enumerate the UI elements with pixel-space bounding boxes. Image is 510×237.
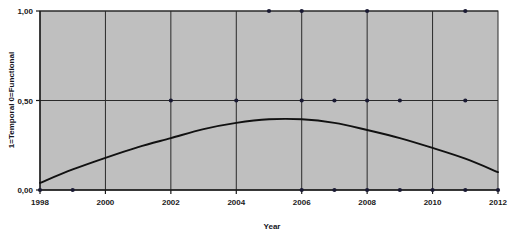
data-point — [365, 9, 369, 13]
data-point — [365, 188, 369, 192]
x-tick-label: 2004 — [227, 198, 245, 207]
y-tick-label: 0,00 — [17, 186, 33, 195]
data-point — [365, 98, 369, 102]
data-point — [398, 98, 402, 102]
data-point — [463, 188, 467, 192]
data-point — [332, 98, 336, 102]
data-point — [267, 9, 271, 13]
x-tick-label: 1998 — [31, 198, 49, 207]
x-tick-label: 2002 — [162, 198, 180, 207]
x-tick-label: 2006 — [293, 198, 311, 207]
data-point — [234, 98, 238, 102]
data-point — [169, 98, 173, 102]
y-axis-title: 1=Temporal 0=Functional — [7, 52, 16, 148]
x-tick-label: 2000 — [97, 198, 115, 207]
y-tick-label: 1,00 — [17, 7, 33, 16]
data-point — [398, 188, 402, 192]
data-point — [300, 98, 304, 102]
x-axis-tick-labels: 19982000200220042006200820102012 — [31, 198, 507, 207]
chart-figure: 0,000,501,00 199820002002200420062008201… — [0, 0, 510, 237]
data-point — [463, 9, 467, 13]
y-axis-tick-labels: 0,000,501,00 — [17, 7, 33, 195]
data-point — [430, 188, 434, 192]
x-tick-label: 2012 — [489, 198, 507, 207]
x-axis-title: Year — [264, 222, 281, 231]
data-point — [300, 188, 304, 192]
data-point — [332, 188, 336, 192]
data-point — [71, 188, 75, 192]
y-tick-label: 0,50 — [17, 97, 33, 106]
x-tick-label: 2010 — [424, 198, 442, 207]
data-point — [463, 98, 467, 102]
data-point — [496, 188, 500, 192]
data-point — [300, 9, 304, 13]
scatter-plot-svg: 0,000,501,00 199820002002200420062008201… — [0, 0, 510, 237]
x-tick-label: 2008 — [358, 198, 376, 207]
data-point — [38, 188, 42, 192]
